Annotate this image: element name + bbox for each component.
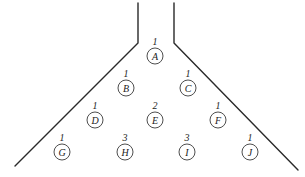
node-count: 3 — [122, 132, 128, 143]
node-label: G — [58, 147, 65, 158]
node-f: 1F — [210, 100, 226, 129]
node-count: 1 — [216, 100, 221, 111]
node-label: D — [90, 115, 99, 126]
node-i: 3I — [179, 132, 195, 161]
node-count: 1 — [93, 100, 98, 111]
node-b: 1B — [118, 68, 134, 97]
node-label: J — [248, 147, 253, 158]
node-g: 1G — [54, 132, 70, 161]
node-label: E — [151, 115, 158, 126]
node-count: 3 — [184, 132, 190, 143]
funnel-diagram: 1A1B1C1D2E1F1G3H3I1J — [0, 0, 305, 177]
node-count: 1 — [60, 132, 65, 143]
node-e: 2E — [147, 100, 163, 129]
node-j: 1J — [242, 132, 258, 161]
node-count: 1 — [153, 36, 158, 47]
node-label: H — [120, 147, 129, 158]
node-count: 1 — [124, 68, 129, 79]
node-count: 1 — [248, 132, 253, 143]
node-label: C — [185, 83, 192, 94]
node-label: F — [214, 115, 222, 126]
node-label: A — [151, 51, 159, 62]
node-h: 3H — [117, 132, 133, 161]
node-a: 1A — [147, 36, 163, 65]
node-d: 1D — [87, 100, 103, 129]
node-c: 1C — [180, 68, 196, 97]
node-count: 2 — [153, 100, 158, 111]
node-label: I — [184, 147, 189, 158]
node-count: 1 — [186, 68, 191, 79]
node-label: B — [123, 83, 129, 94]
